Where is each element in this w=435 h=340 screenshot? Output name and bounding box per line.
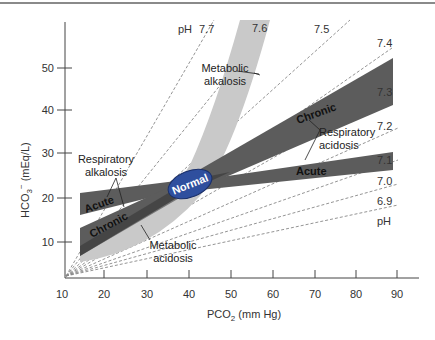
x-tick-60: 60 [267,288,279,300]
ph-6.9-label: 6.9 [377,195,392,207]
respiratory-acidosis-label-2: acidosis [319,139,359,151]
metabolic-acidosis-label-1: Metabolic [149,239,197,251]
ph-7.2-label: 7.2 [377,120,392,132]
x-tick-40: 40 [183,288,195,300]
ph-7.7-label: 7.7 [199,23,214,35]
x-tick-90: 90 [391,288,403,300]
ph-7.3-label: 7.3 [377,86,392,98]
ph-bottom-label: pH [377,215,391,227]
respiratory-acidosis-label-1: Respiratory [319,126,376,138]
ph-7.6-label: 7.6 [252,22,267,34]
x-tick-20: 20 [98,288,110,300]
ph-7.4-label: 7.4 [377,37,392,49]
y-tick-20: 20 [42,192,54,204]
y-tick-40: 40 [42,104,54,116]
acid-base-nomogram: Normal Acute Chronic Acute Chronic Metab… [0,0,435,340]
metabolic-alkalosis-label-2: alkalosis [204,75,247,87]
x-tick-10: 10 [56,288,68,300]
metabolic-alkalosis-label-1: Metabolic [201,62,249,74]
x-tick-50: 50 [225,288,237,300]
y-axis-title: HCO3− (mEq/L) [17,142,34,218]
ph-7.5-label: 7.5 [314,23,329,35]
y-tick-50: 50 [42,62,54,74]
respiratory-alkalosis-label-2: alkalosis [85,166,128,178]
ph-top-label: pH [178,23,192,35]
x-tick-30: 30 [141,288,153,300]
x-axis-title: PCO2 (mm Hg) [207,308,281,323]
y-tick-10: 10 [42,236,54,248]
respiratory-alkalosis-label-1: Respiratory [78,153,135,165]
ph-7.0-label: 7.0 [377,175,392,187]
metabolic-acidosis-label-2: acidosis [153,252,193,264]
resp-acidosis-acute-label: Acute [296,165,327,177]
x-tick-80: 80 [350,288,362,300]
y-tick-30: 30 [42,147,54,159]
x-tick-70: 70 [309,288,321,300]
ph-7.1-label: 7.1 [377,154,392,166]
